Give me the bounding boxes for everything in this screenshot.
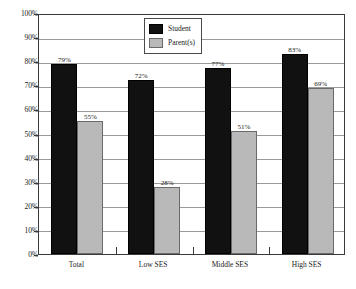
legend-label-student: Student bbox=[168, 25, 191, 33]
gray-swatch-icon bbox=[149, 38, 163, 48]
bar-value-label: 55% bbox=[71, 114, 109, 121]
y-axis-tick-label: 0% bbox=[4, 251, 38, 259]
y-axis-tick-label: 70% bbox=[4, 82, 38, 90]
bar-value-label: 51% bbox=[225, 124, 263, 131]
y-axis-tick-label: 60% bbox=[4, 106, 38, 114]
bar-parent bbox=[154, 187, 180, 254]
y-axis-tick-label: 40% bbox=[4, 155, 38, 163]
bar-chart: 0%10%20%30%40%50%60%70%80%90%100% 79%55%… bbox=[0, 0, 356, 289]
y-axis-tick-label: 30% bbox=[4, 179, 38, 187]
legend-item-parents: Parent(s) bbox=[149, 36, 197, 50]
y-axis-tick-label: 100% bbox=[4, 10, 38, 18]
y-axis-tick-label: 90% bbox=[4, 34, 38, 42]
y-axis-tick-label: 50% bbox=[4, 131, 38, 139]
bar-parent bbox=[77, 121, 103, 254]
x-axis-category-label: Low SES bbox=[115, 261, 192, 269]
x-axis-tick-mark bbox=[116, 247, 117, 254]
x-axis-category-label: High SES bbox=[268, 261, 345, 269]
y-axis-tick-label: 20% bbox=[4, 203, 38, 211]
chart-legend: Student Parent(s) bbox=[144, 18, 202, 54]
bar-student bbox=[205, 68, 231, 254]
bar-student bbox=[128, 80, 154, 254]
x-axis-category-label: Total bbox=[38, 261, 115, 269]
x-axis-tick-mark bbox=[193, 247, 194, 254]
legend-item-student: Student bbox=[149, 22, 197, 36]
y-axis-tick-label: 10% bbox=[4, 227, 38, 235]
bar-value-label: 77% bbox=[199, 61, 237, 68]
bar-parent bbox=[308, 88, 334, 254]
y-axis-tick-mark bbox=[34, 255, 38, 256]
bar-value-label: 69% bbox=[302, 81, 340, 88]
x-axis-category-label: Middle SES bbox=[192, 261, 269, 269]
black-swatch-icon bbox=[149, 24, 163, 34]
bar-student bbox=[51, 64, 77, 254]
bar-parent bbox=[231, 131, 257, 254]
bar-value-label: 83% bbox=[276, 47, 314, 54]
x-axis-tick-mark bbox=[269, 247, 270, 254]
legend-label-parents: Parent(s) bbox=[168, 39, 195, 47]
bar-value-label: 79% bbox=[45, 57, 83, 64]
bar-value-label: 28% bbox=[148, 180, 186, 187]
y-axis-tick-label: 80% bbox=[4, 58, 38, 66]
bar-value-label: 72% bbox=[122, 73, 160, 80]
